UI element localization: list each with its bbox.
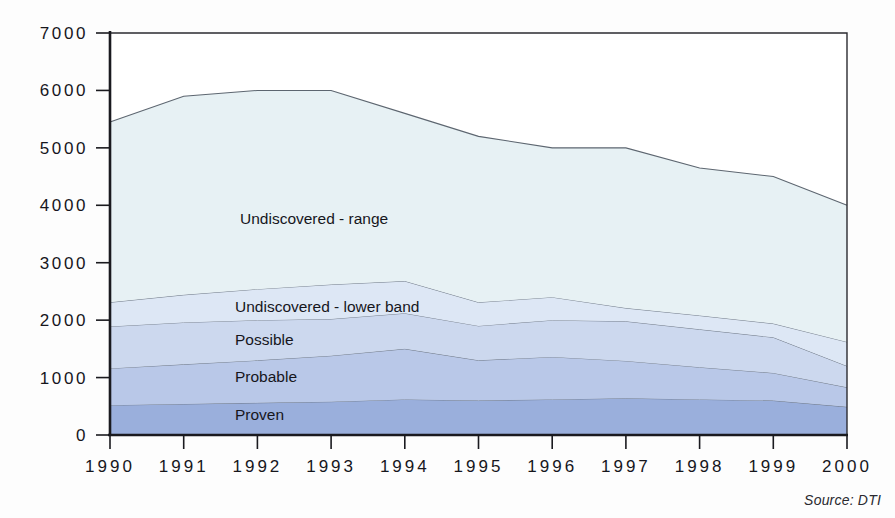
x-tick-label-1992: 1992 — [232, 457, 282, 476]
x-tick-label-1993: 1993 — [306, 457, 356, 476]
series-inline-label-possible: Possible — [235, 331, 294, 348]
series-inline-label-proven: Proven — [235, 406, 284, 423]
x-tick-label-1996: 1996 — [527, 457, 577, 476]
y-tick-label: 7000 — [40, 24, 88, 43]
stacked-area-chart: 01000200030004000500060007000 1990199119… — [0, 0, 895, 518]
series-inline-label-undiscovered-range: Undiscovered - range — [240, 210, 388, 227]
y-tick-label: 4000 — [40, 196, 88, 215]
y-tick-label: 5000 — [40, 139, 88, 158]
y-tick-label: 0 — [76, 426, 88, 445]
x-tick-label-1991: 1991 — [159, 457, 209, 476]
source-note: Source: DTI — [804, 492, 881, 508]
x-tick-label-1999: 1999 — [748, 457, 798, 476]
y-tick-label: 2000 — [40, 311, 88, 330]
x-tick-label-1990: 1990 — [85, 457, 135, 476]
x-tick-label-1995: 1995 — [454, 457, 504, 476]
y-tick-label: 6000 — [40, 81, 88, 100]
series-inline-label-undiscovered-lower-band: Undiscovered - lower band — [235, 298, 419, 315]
x-tick-label-1997: 1997 — [601, 457, 651, 476]
x-tick-label-2000: 2000 — [822, 457, 872, 476]
series-inline-label-probable: Probable — [235, 368, 297, 385]
y-tick-label-group: 01000200030004000500060007000 — [40, 24, 88, 445]
x-tick-label-1994: 1994 — [380, 457, 430, 476]
x-tick-group — [110, 435, 847, 449]
y-tick-label: 3000 — [40, 254, 88, 273]
x-tick-label-group: 1990199119921993199419951996199719981999… — [85, 457, 872, 476]
x-tick-label-1998: 1998 — [675, 457, 725, 476]
y-tick-group — [96, 33, 110, 435]
chart-figure: 01000200030004000500060007000 1990199119… — [0, 0, 895, 518]
y-tick-label: 1000 — [40, 369, 88, 388]
